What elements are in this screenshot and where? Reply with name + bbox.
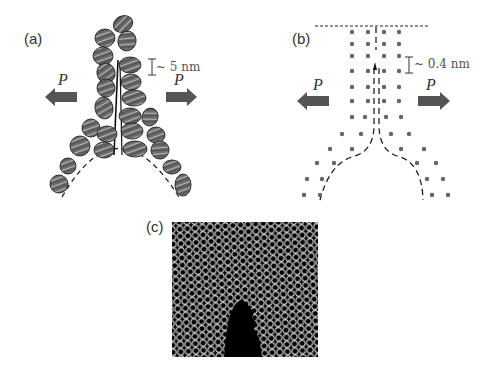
panel-b-label: (b) [292,30,310,47]
force-arrow-right-a [166,88,197,106]
scale-bar-b-label: ~ 0.4 nm [414,57,470,71]
panel-c: (c) [146,218,318,357]
scale-bar-b [405,57,413,73]
force-label-left-b: P [312,76,323,93]
crack-tip-marker [373,62,377,70]
panel-c-label: (c) [146,218,164,235]
panel-b: (b) ~ [292,26,470,200]
scale-bar-a [148,59,156,75]
crack-dashed-lines [320,27,423,200]
force-arrow-right-b [418,92,450,110]
panel-a-label: (a) [24,30,42,47]
lattice-dots [302,30,450,197]
force-label-right-b: P [425,76,436,93]
honeycomb-lattice-image [172,222,318,357]
force-label-right-a: P [173,71,184,88]
figure-canvas: (a) [0,0,479,379]
force-label-left-a: P [57,71,68,88]
panel-a: (a) [24,13,201,197]
force-arrow-left-a [45,88,77,106]
spine-line-right [120,62,122,155]
force-arrow-left-b [297,92,329,110]
